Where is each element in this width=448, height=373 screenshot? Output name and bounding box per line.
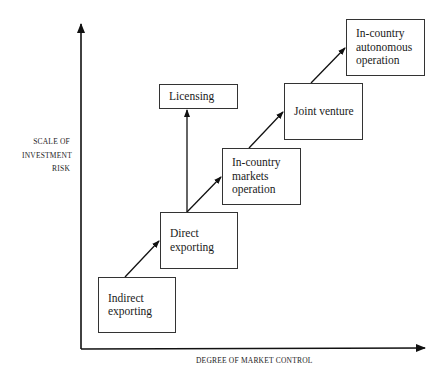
node-label: In-country markets operation: [232, 156, 281, 197]
arrow-direct-to-markets: [187, 177, 221, 212]
node-label: Indirect exporting: [108, 292, 152, 319]
node-in-country-markets-operation: In-country markets operation: [222, 148, 301, 205]
arrow-joint-to-autonomous: [311, 48, 345, 83]
node-direct-exporting: Direct exporting: [160, 212, 238, 269]
arrow-markets-to-joint: [249, 112, 283, 148]
x-axis-label: DEGREE OF MARKET CONTROL: [196, 356, 313, 365]
node-indirect-exporting: Indirect exporting: [98, 277, 176, 333]
node-label: Licensing: [169, 90, 214, 104]
node-label: Direct exporting: [170, 227, 214, 254]
node-licensing: Licensing: [159, 84, 238, 109]
arrow-indirect-to-direct: [125, 241, 159, 277]
node-joint-venture: Joint venture: [284, 83, 363, 140]
node-in-country-autonomous-operation: In-country autonomous operation: [346, 19, 425, 76]
y-axis-label: SCALE OF INVESTMENT RISK: [22, 135, 70, 176]
x-axis: [81, 348, 425, 349]
node-label: In-country autonomous operation: [356, 27, 412, 68]
node-label: Joint venture: [294, 105, 354, 119]
